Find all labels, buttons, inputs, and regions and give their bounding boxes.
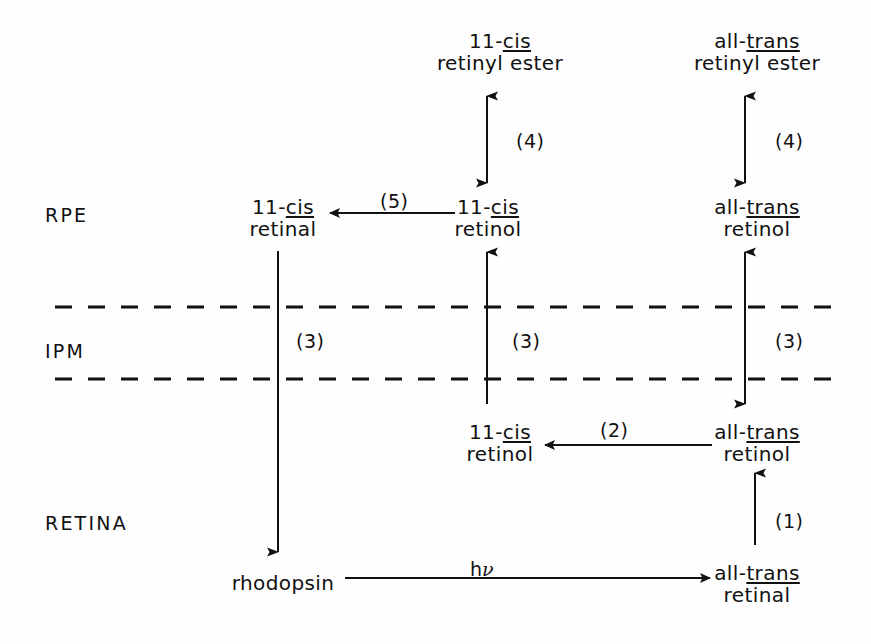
isomer-descriptor: cis [503, 420, 531, 444]
node-isomer-line: all-trans [714, 562, 800, 584]
node-compound-line: retinol [714, 443, 800, 465]
node-compound-line: rhodopsin [232, 572, 335, 594]
node-cis-retinyl-ester: 11-cisretinyl ester [437, 30, 563, 75]
node-isomer-line: 11-cis [455, 196, 522, 218]
node-compound-line: retinyl ester [437, 52, 563, 74]
label-step-3-left: (3) [296, 330, 324, 352]
diagram-lines-layer [0, 0, 871, 644]
node-compound-line: retinal [714, 584, 800, 606]
node-compound-line: retinol [714, 218, 800, 240]
node-trans-retinal-retina: all-transretinal [714, 562, 800, 607]
membrane-dashed-lines [55, 307, 845, 379]
node-isomer-line: all-trans [694, 30, 820, 52]
isomer-descriptor: cis [286, 195, 314, 219]
node-compound-line: retinol [455, 218, 522, 240]
isomer-descriptor: cis [503, 29, 531, 53]
label-step-3-right: (3) [775, 330, 803, 352]
label-step-5: (5) [380, 190, 408, 212]
node-compound-line: retinyl ester [694, 52, 820, 74]
label-step-4-trans: (4) [775, 130, 803, 152]
node-isomer-line: all-trans [714, 421, 800, 443]
label-step-3-middle: (3) [512, 330, 540, 352]
node-compound-line: retinol [467, 443, 534, 465]
label-photon-hv: hν [470, 558, 494, 580]
node-trans-retinyl-ester: all-transretinyl ester [694, 30, 820, 75]
node-trans-retinol-ipm: all-transretinol [714, 421, 800, 466]
isomer-descriptor: cis [491, 195, 519, 219]
node-trans-retinol-rpe: all-transretinol [714, 196, 800, 241]
isomer-descriptor: trans [746, 195, 799, 219]
isomer-descriptor: trans [746, 561, 799, 585]
pathway-diagram: RPEIPMRETINA 11-cisretinyl esterall-tran… [0, 0, 871, 644]
label-step-2: (2) [600, 419, 628, 441]
label-step-4-cis: (4) [516, 130, 544, 152]
node-isomer-line: 11-cis [250, 196, 317, 218]
node-compound-line: retinal [250, 218, 317, 240]
node-isomer-line: 11-cis [467, 421, 534, 443]
zone-label-retina: RETINA [45, 512, 128, 534]
node-rhodopsin: rhodopsin [232, 572, 335, 594]
node-isomer-line: all-trans [714, 196, 800, 218]
zone-label-ipm: IPM [45, 340, 85, 362]
nu-symbol: ν [482, 558, 494, 580]
node-cis-retinol-rpe: 11-cisretinol [455, 196, 522, 241]
isomer-descriptor: trans [746, 420, 799, 444]
node-cis-retinal-rpe: 11-cisretinal [250, 196, 317, 241]
node-isomer-line: 11-cis [437, 30, 563, 52]
isomer-descriptor: trans [746, 29, 799, 53]
zone-label-rpe: RPE [45, 204, 88, 226]
label-step-1: (1) [775, 510, 803, 532]
node-cis-retinol-ipm: 11-cisretinol [467, 421, 534, 466]
